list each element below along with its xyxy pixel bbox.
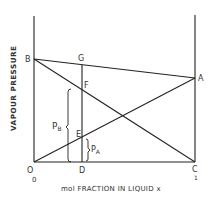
pb-brace	[66, 89, 71, 162]
point-label-B: B	[25, 55, 31, 64]
point-label-G: G	[78, 54, 84, 63]
point-label-E: E	[76, 130, 81, 139]
partial-pressure-line-BC	[34, 59, 195, 162]
y-axis-label: VAPOUR PRESSURE	[9, 46, 18, 131]
pb-annotation: PB	[52, 121, 62, 132]
partial-pressure-line-OA	[34, 78, 195, 162]
point-label-D: D	[79, 166, 85, 175]
x-tick-0: 0	[32, 176, 36, 184]
total-pressure-line-BA	[34, 59, 195, 78]
vapour-pressure-diagram: VAPOUR PRESSURE B G F E A O D C 0 1 PB P…	[0, 0, 214, 199]
point-label-O: O	[27, 166, 33, 175]
point-label-F: F	[84, 81, 89, 90]
point-label-C: C	[192, 165, 198, 174]
pa-annotation: PA	[91, 145, 101, 155]
x-tick-1: 1	[194, 174, 198, 181]
x-axis-label: mol FRACTION IN LIQUID x	[61, 185, 161, 193]
pa-brace	[86, 139, 90, 161]
point-label-A: A	[198, 74, 204, 83]
